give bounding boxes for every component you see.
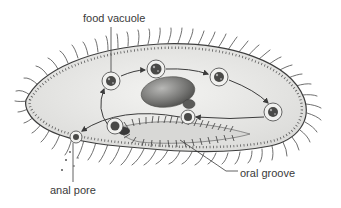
food-vacuole: [181, 110, 195, 124]
food-vacuole: [210, 68, 228, 86]
paramecium-diagram: food vacuole anal pore oral groove: [0, 0, 341, 208]
food-vacuole-anal-pore: [70, 131, 82, 143]
waste-particles: [61, 151, 79, 171]
label-anal-pore: anal pore: [50, 184, 96, 196]
food-vacuole: [102, 72, 120, 90]
micronucleus: [183, 100, 195, 109]
label-oral-groove: oral groove: [240, 167, 295, 179]
food-vacuole: [107, 118, 123, 134]
label-food-vacuole: food vacuole: [83, 12, 145, 24]
food-vacuole: [264, 103, 282, 121]
food-vacuole: [147, 60, 165, 78]
